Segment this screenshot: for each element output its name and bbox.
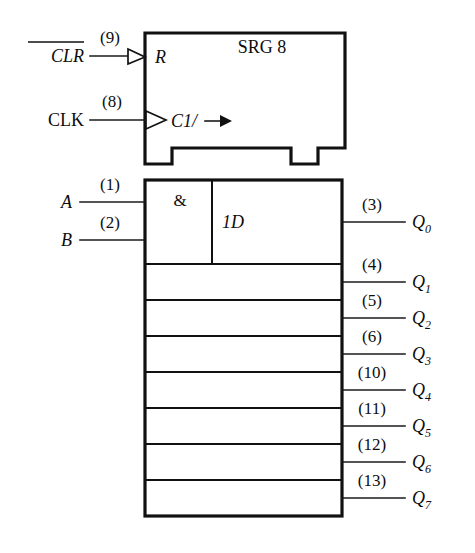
control-block-title: SRG 8	[238, 37, 287, 57]
output-row-q1: (4) Q1	[342, 255, 431, 296]
pin-number-b: (2)	[100, 213, 120, 232]
pin-number-q3: (6)	[362, 327, 382, 346]
port-label-clock: C1/	[171, 111, 199, 131]
input-label-clr: CLR	[51, 46, 84, 66]
data-input-label: 1D	[222, 212, 244, 232]
output-label-q3: Q3	[412, 344, 431, 368]
pin-number-a: (1)	[100, 175, 120, 194]
output-row-q7: (13) Q7	[342, 471, 432, 512]
input-label-b: B	[61, 230, 72, 250]
pin-number-q7: (13)	[358, 471, 386, 490]
pin-number-q6: (12)	[358, 435, 386, 454]
port-label-reset: R	[154, 47, 166, 67]
output-label-q5: Q5	[412, 416, 431, 440]
active-low-wedge-icon	[128, 49, 145, 64]
pin-number-q5: (11)	[358, 399, 386, 418]
output-label-q2: Q2	[412, 308, 431, 332]
output-label-q6: Q6	[412, 452, 431, 476]
pin-number-clk: (8)	[102, 92, 122, 111]
output-row-q4: (10) Q4	[342, 363, 431, 404]
pin-number-q0: (3)	[362, 195, 382, 214]
output-row-q0: (3) Q0	[342, 195, 431, 236]
logic-diagram-canvas: SRG 8 CLR (9) R CLK (8) C1/	[0, 0, 475, 553]
output-label-q0: Q0	[412, 212, 431, 236]
output-row-q2: (5) Q2	[342, 291, 431, 332]
input-label-a: A	[60, 192, 73, 212]
pin-number-q1: (4)	[362, 255, 382, 274]
pin-number-clr: (9)	[100, 28, 120, 47]
input-label-clk: CLK	[48, 110, 84, 130]
output-label-q4: Q4	[412, 380, 431, 404]
output-label-q1: Q1	[412, 272, 431, 296]
output-row-q5: (11) Q5	[342, 399, 431, 440]
output-row-q6: (12) Q6	[342, 435, 431, 476]
and-gate-label: &	[173, 191, 186, 210]
output-row-q3: (6) Q3	[342, 327, 431, 368]
pin-number-q4: (10)	[358, 363, 386, 382]
shift-register-symbol: SRG 8 CLR (9) R CLK (8) C1/	[0, 0, 475, 553]
output-label-q7: Q7	[412, 488, 432, 512]
pin-number-q2: (5)	[362, 291, 382, 310]
